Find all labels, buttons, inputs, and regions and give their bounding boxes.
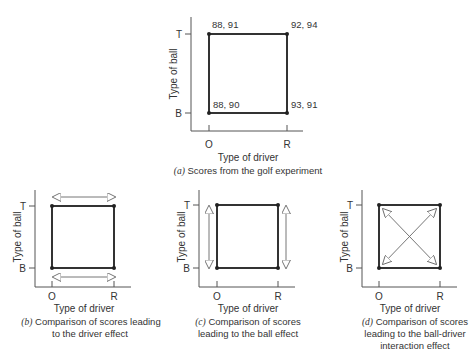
y-axis-label: Type of ball: [12, 211, 23, 262]
y-axis-label: Type of ball: [168, 48, 179, 99]
panel-b: T B O R Type of driver Type of ball (b) …: [12, 190, 161, 339]
x-axis-label: Type of driver: [218, 152, 279, 163]
caption-c-line2: leading to the ball effect: [198, 328, 299, 339]
y-tick-t: T: [176, 29, 182, 40]
x-axis-label: Type of driver: [54, 303, 115, 314]
x-tick-o: O: [213, 291, 221, 302]
x-tick-o: O: [205, 139, 213, 150]
y-axis-label: Type of ball: [176, 211, 187, 262]
x-tick-o: O: [375, 291, 383, 302]
y-tick-b: B: [346, 263, 353, 274]
caption-d-line3: interaction effect: [380, 340, 450, 351]
caption-a: (a) Scores from the golf experiment: [174, 165, 323, 177]
y-tick-b: B: [19, 263, 26, 274]
point-label-rb: 93, 91: [291, 99, 317, 110]
caption-c-line1: (c) Comparison of scores: [195, 316, 301, 328]
x-axis-label: Type of driver: [380, 303, 441, 314]
caption-b-line2: to the driver effect: [52, 328, 128, 339]
panel-d: T B O R Type of driver Type of ball (d) …: [339, 190, 468, 351]
y-axis-label: Type of ball: [339, 211, 350, 262]
y-tick-b: B: [175, 108, 182, 119]
y-tick-t: T: [184, 200, 190, 211]
x-tick-r: R: [274, 291, 281, 302]
design-square: [52, 206, 114, 268]
point-label-ot: 88, 91: [212, 19, 238, 30]
caption-b-line1: (b) Comparison of scores leading: [21, 316, 160, 328]
x-tick-r: R: [436, 291, 443, 302]
x-tick-r: R: [283, 139, 290, 150]
panel-a: 88, 91 92, 94 88, 90 93, 91 T B O R Type…: [168, 17, 323, 177]
x-tick-o: O: [48, 291, 56, 302]
caption-d-line2: leading to the ball-driver: [364, 328, 465, 339]
caption-d-line1: (d) Comparison of scores: [362, 316, 468, 328]
y-tick-b: B: [183, 263, 190, 274]
golf-factorial-diagram: 88, 91 92, 94 88, 90 93, 91 T B O R Type…: [0, 0, 475, 355]
panel-c: T B O R Type of driver Type of ball (c) …: [176, 190, 301, 339]
x-tick-r: R: [110, 291, 117, 302]
y-tick-t: T: [20, 201, 26, 212]
y-tick-t: T: [347, 200, 353, 211]
point-label-rt: 92, 94: [291, 19, 317, 30]
point-label-ob: 88, 90: [213, 99, 239, 110]
design-square: [217, 205, 278, 268]
x-axis-label: Type of driver: [218, 303, 279, 314]
